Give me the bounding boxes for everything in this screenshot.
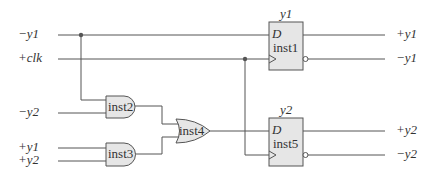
ff2-out-neg: −y2 — [396, 146, 417, 162]
ff1-out-pos: +y1 — [396, 26, 417, 42]
ff2-name: inst5 — [273, 136, 298, 152]
ff1-out-neg: −y1 — [396, 50, 417, 66]
ff1-state-label: y1 — [280, 6, 292, 22]
ff2-state-label: y2 — [280, 102, 292, 118]
gate-inst2-label: inst2 — [108, 99, 133, 115]
ff1-name: inst1 — [273, 40, 298, 56]
ff2-out-pos: +y2 — [396, 122, 417, 138]
input-label-pos-y2: +y2 — [18, 152, 39, 168]
input-label-neg-y2: −y2 — [18, 104, 39, 120]
gate-inst3-label: inst3 — [108, 146, 133, 162]
circuit-wires — [0, 0, 438, 179]
gate-inst4-label: inst4 — [179, 123, 204, 139]
logic-circuit-diagram: −y1 +clk −y2 +y1 +y2 y1 D inst1 +y1 −y1 … — [0, 0, 438, 179]
input-label-neg-y1: −y1 — [18, 26, 39, 42]
input-label-clk: +clk — [18, 50, 42, 66]
